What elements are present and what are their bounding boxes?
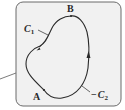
point-b-label: B xyxy=(67,3,74,14)
c2-label-prefix: − xyxy=(91,89,97,100)
leader-line xyxy=(0,73,16,79)
c2-label-sub: 2 xyxy=(104,94,108,102)
c1-label-sub: 1 xyxy=(31,28,35,36)
point-a-label: A xyxy=(33,91,41,102)
diagram-panel xyxy=(16,2,121,106)
point-a-marker xyxy=(43,89,45,91)
point-b-marker xyxy=(70,15,72,17)
diagram-canvas: B A C1 −C2 xyxy=(0,0,125,110)
